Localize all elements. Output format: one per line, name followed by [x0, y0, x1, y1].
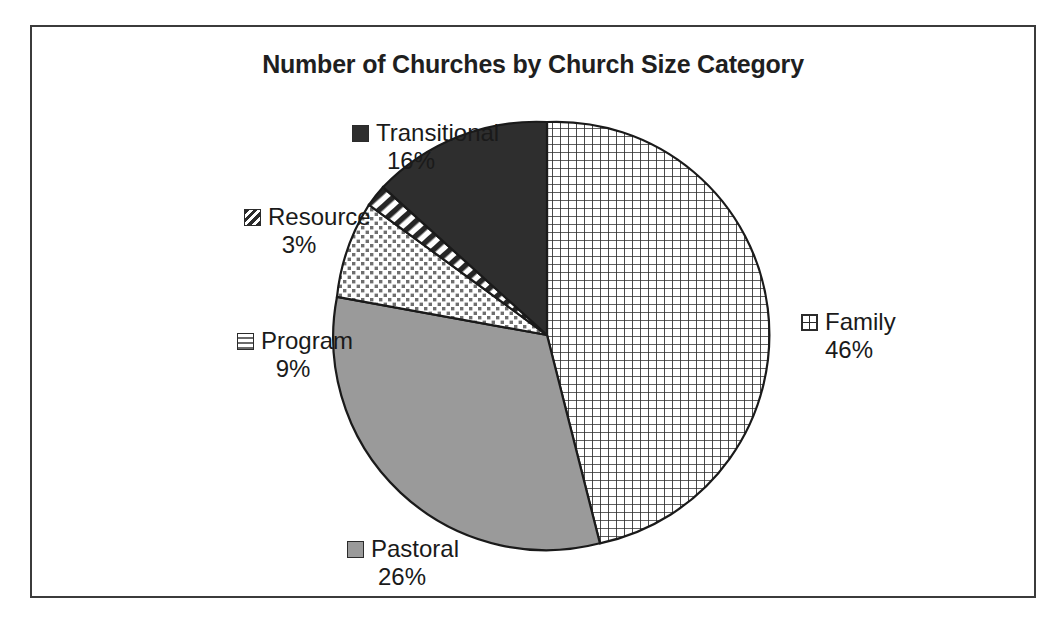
legend-swatch-pastoral	[347, 541, 364, 558]
pie-label-family-text: Family	[825, 308, 896, 336]
pie-label-program-value: 9%	[237, 355, 349, 383]
pie-label-transitional: Transitional 16%	[352, 119, 499, 176]
pie-slice-family	[547, 122, 769, 544]
pie-chart-graphic	[0, 0, 1061, 620]
pie-label-resource-value: 3%	[244, 231, 354, 259]
pie-label-pastoral: Pastoral 26%	[347, 535, 459, 592]
pie-label-resource-text: Resource	[268, 203, 371, 231]
pie-label-program: Program 9%	[237, 327, 353, 384]
pie-label-transitional-value: 16%	[352, 147, 470, 175]
pie-label-pastoral-value: 26%	[347, 563, 457, 591]
legend-swatch-family	[801, 314, 818, 331]
legend-swatch-program	[237, 333, 254, 350]
pie-label-family-value: 46%	[801, 336, 897, 364]
pie-slice-pastoral	[333, 297, 600, 550]
pie-label-resource: Resource 3%	[244, 203, 371, 260]
chart-frame: Number of Churches by Church Size Catego…	[30, 25, 1036, 598]
chart-title: Number of Churches by Church Size Catego…	[32, 50, 1034, 79]
pie-label-pastoral-text: Pastoral	[371, 535, 459, 563]
pie-slice-resource	[369, 187, 547, 335]
pie-label-transitional-text: Transitional	[376, 119, 499, 147]
legend-swatch-transitional	[352, 125, 369, 142]
pie-label-family: Family 46%	[801, 308, 897, 365]
pie-label-program-text: Program	[261, 327, 353, 355]
legend-swatch-resource	[244, 209, 261, 226]
pie-svg	[0, 0, 1061, 620]
